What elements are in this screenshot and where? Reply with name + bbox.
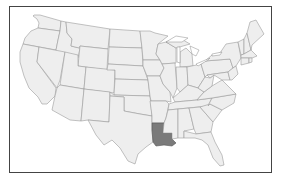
lake-michigan [177,47,180,63]
state-south-dakota[interactable] [108,47,143,66]
state-north-dakota[interactable] [109,29,142,48]
state-colorado[interactable] [84,67,115,93]
state-connecticut[interactable] [241,58,249,65]
state-new-mexico[interactable] [81,89,110,122]
state-rhode-island[interactable] [249,58,252,63]
state-florida[interactable] [184,131,224,166]
states-layer [20,15,264,166]
us-map [0,0,285,182]
state-montana[interactable] [66,22,110,49]
state-arizona[interactable] [52,85,84,121]
state-iowa[interactable] [143,60,164,76]
state-kansas[interactable] [114,79,150,96]
